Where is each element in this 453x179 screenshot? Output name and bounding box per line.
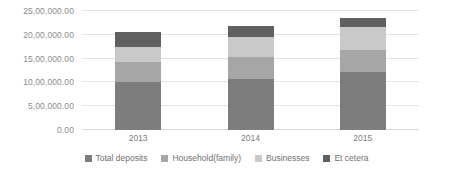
y-axis-tick-label: 5,00,000.00 bbox=[28, 101, 74, 111]
x-axis-label-2015: 2015 bbox=[328, 133, 398, 143]
legend-swatch-icon bbox=[85, 155, 92, 162]
y-axis-tick-label: 25,00,000.00 bbox=[23, 6, 74, 16]
plot-area bbox=[82, 11, 419, 130]
legend-item[interactable]: Household(family) bbox=[161, 153, 241, 163]
bar-segment[interactable] bbox=[228, 37, 274, 57]
y-axis-tick-label: 0.00 bbox=[57, 125, 74, 135]
legend-item[interactable]: Et cetera bbox=[323, 153, 368, 163]
x-axis-label-2014: 2014 bbox=[216, 133, 286, 143]
y-axis-tick-label: 20,00,000.00 bbox=[23, 30, 74, 40]
bar-group-2013[interactable] bbox=[115, 32, 161, 130]
legend-swatch-icon bbox=[161, 155, 168, 162]
legend-label: Et cetera bbox=[334, 153, 368, 163]
bar-segment[interactable] bbox=[115, 47, 161, 62]
legend-label: Businesses bbox=[266, 153, 309, 163]
legend-swatch-icon bbox=[323, 155, 330, 162]
bar-group-2015[interactable] bbox=[340, 18, 386, 130]
x-axis-label-2013: 2013 bbox=[103, 133, 173, 143]
bar-segment[interactable] bbox=[228, 79, 274, 130]
chart-legend: Total depositsHousehold(family)Businesse… bbox=[0, 153, 453, 163]
stacked-bar-chart: 0.005,00,000.0010,00,000.0015,00,000.002… bbox=[0, 0, 453, 179]
x-axis: 201320142015 bbox=[82, 131, 419, 147]
bar-segment[interactable] bbox=[115, 32, 161, 46]
bar-group-2014[interactable] bbox=[228, 26, 274, 130]
y-axis-tick-label: 10,00,000.00 bbox=[23, 77, 74, 87]
bar-segment[interactable] bbox=[340, 18, 386, 27]
legend-item[interactable]: Businesses bbox=[255, 153, 309, 163]
bar-segment[interactable] bbox=[340, 72, 386, 130]
legend-label: Household(family) bbox=[172, 153, 241, 163]
bar-segment[interactable] bbox=[115, 82, 161, 130]
legend-swatch-icon bbox=[255, 155, 262, 162]
legend-item[interactable]: Total deposits bbox=[85, 153, 148, 163]
bar-series-container bbox=[82, 11, 419, 130]
bar-segment[interactable] bbox=[228, 57, 274, 79]
bar-segment[interactable] bbox=[340, 50, 386, 73]
bar-segment[interactable] bbox=[340, 27, 386, 49]
bar-segment[interactable] bbox=[115, 62, 161, 82]
y-axis-tick-label: 15,00,000.00 bbox=[23, 54, 74, 64]
bar-segment[interactable] bbox=[228, 26, 274, 36]
y-axis: 0.005,00,000.0010,00,000.0015,00,000.002… bbox=[0, 11, 78, 130]
legend-label: Total deposits bbox=[96, 153, 148, 163]
